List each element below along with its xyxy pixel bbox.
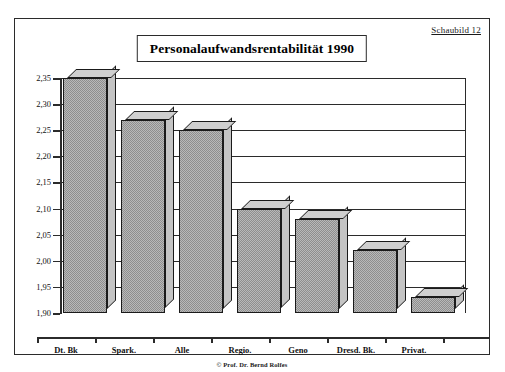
x-axis-category-label: Alle bbox=[175, 345, 190, 355]
bar-dresdbk bbox=[353, 250, 397, 313]
x-axis-category-label: Regio. bbox=[229, 345, 252, 355]
y-axis-tick bbox=[53, 287, 60, 289]
y-axis-line bbox=[60, 78, 62, 314]
x-axis-line bbox=[37, 337, 489, 339]
bar-privat bbox=[411, 297, 455, 313]
bar-dtbk bbox=[63, 78, 107, 313]
bar-spark bbox=[121, 120, 165, 313]
y-axis-tick bbox=[53, 313, 60, 315]
figure-frame: Schaubild 12 Personalaufwandsrentabilitä… bbox=[14, 18, 490, 355]
y-axis-tick-label: 1,90 bbox=[36, 308, 51, 318]
y-axis-tick bbox=[53, 182, 60, 184]
y-axis-tick bbox=[53, 235, 60, 237]
y-axis-tick-label: 2,35 bbox=[36, 73, 51, 83]
bar-side-face bbox=[339, 206, 348, 309]
x-axis-tick bbox=[37, 337, 39, 343]
y-axis-tick-label: 2,20 bbox=[36, 151, 51, 161]
bar-front-face bbox=[63, 78, 107, 313]
bar-regio bbox=[237, 209, 281, 313]
x-axis-category-label: Dresd. Bk. bbox=[337, 345, 375, 355]
plot-right-edge bbox=[465, 78, 466, 313]
x-axis-tick bbox=[211, 337, 213, 343]
bar-front-face bbox=[411, 297, 455, 313]
bar-top-face bbox=[299, 210, 352, 219]
bar-alle bbox=[179, 130, 223, 313]
bar-top-face bbox=[241, 200, 294, 209]
x-axis-tick bbox=[95, 337, 97, 343]
y-axis-tick bbox=[53, 78, 60, 80]
y-axis-tick bbox=[53, 261, 60, 263]
bar-front-face bbox=[295, 219, 339, 313]
chart-title-box: Personalaufwandsrentabilität 1990 bbox=[137, 35, 367, 62]
y-axis-tick bbox=[53, 209, 60, 211]
bar-side-face bbox=[165, 107, 174, 309]
y-axis-tick bbox=[53, 104, 60, 106]
bar-side-face bbox=[281, 195, 290, 308]
figure-caption-label: Schaubild 12 bbox=[431, 25, 481, 35]
x-axis-tick bbox=[327, 337, 329, 343]
x-axis-category-label: Geno bbox=[288, 345, 307, 355]
y-axis-tick-label: 2,00 bbox=[36, 256, 51, 266]
y-axis-tick-label: 2,30 bbox=[36, 99, 51, 109]
bar-front-face bbox=[121, 120, 165, 313]
gridline bbox=[60, 104, 466, 105]
x-axis-tick bbox=[443, 337, 445, 343]
x-axis-tick bbox=[269, 337, 271, 343]
plot-area bbox=[60, 78, 466, 313]
y-axis-tick-label: 2,25 bbox=[36, 125, 51, 135]
x-axis-tick bbox=[153, 337, 155, 343]
y-axis-tick bbox=[53, 130, 60, 132]
copyright-note: © Prof. Dr. Bernd Rolfes bbox=[217, 361, 288, 368]
bar-top-face bbox=[67, 69, 120, 78]
x-axis-category-label: Spark. bbox=[112, 345, 136, 355]
y-axis-labels: 2,352,302,252,202,152,102,052,001,951,90 bbox=[15, 19, 51, 372]
bar-side-face bbox=[223, 117, 232, 308]
x-axis-category-label: Dt. Bk bbox=[54, 345, 78, 355]
bar-side-face bbox=[107, 65, 116, 309]
bar-geno bbox=[295, 219, 339, 313]
gridline bbox=[60, 78, 466, 79]
y-axis-tick-label: 1,95 bbox=[36, 282, 51, 292]
bar-front-face bbox=[237, 209, 281, 313]
y-axis-tick-label: 2,15 bbox=[36, 177, 51, 187]
bar-front-face bbox=[353, 250, 397, 313]
bar-front-face bbox=[179, 130, 223, 313]
page-title: Personalaufwandsrentabilität 1990 bbox=[150, 41, 354, 56]
bar-top-face bbox=[125, 111, 178, 120]
y-axis-tick-label: 2,10 bbox=[36, 204, 51, 214]
x-axis-tick bbox=[385, 337, 387, 343]
y-axis-tick-label: 2,05 bbox=[36, 230, 51, 240]
x-axis-category-label: Privat. bbox=[402, 345, 427, 355]
y-axis-tick bbox=[53, 156, 60, 158]
